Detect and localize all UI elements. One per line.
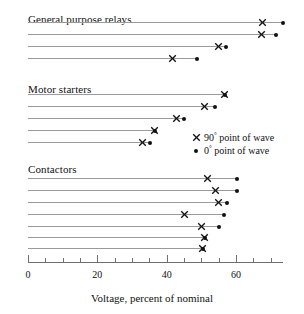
x-axis-tick-major (236, 255, 237, 262)
marker-90deg-point (214, 42, 223, 51)
data-row-line (28, 142, 150, 143)
marker-0deg-point (235, 177, 239, 181)
x-axis-tick-minor (63, 258, 64, 262)
marker-90deg-point (257, 30, 266, 39)
marker-90deg-point (214, 198, 223, 207)
marker-0deg-point (274, 33, 278, 37)
x-axis-tick-major (97, 255, 98, 262)
marker-0deg-point (195, 57, 199, 61)
x-axis-tick-label: 0 (26, 270, 31, 280)
marker-90deg-point (180, 210, 189, 219)
x-axis-tick-minor (132, 258, 133, 262)
data-row-line (28, 130, 155, 131)
marker-0deg-point (281, 21, 285, 25)
marker-90deg-point (258, 18, 267, 27)
data-row-line (28, 118, 184, 119)
marker-90deg-point (197, 222, 206, 231)
marker-90deg-point (220, 90, 229, 99)
marker-90deg-point (200, 233, 209, 242)
x-axis-tick-minor (219, 258, 220, 262)
data-row-line (28, 34, 276, 35)
marker-90deg-point (200, 102, 209, 111)
chart-root: General purpose relaysMotor startersCont… (0, 0, 304, 314)
x-axis-tick-minor (184, 258, 185, 262)
legend-item-label: 90° point of wave (204, 131, 274, 144)
x-axis-tick-minor (253, 258, 254, 262)
x-axis-tick-label: 60 (231, 270, 241, 280)
marker-0deg-point (148, 141, 152, 145)
group-title: Contactors (28, 164, 77, 175)
x-axis-tick-minor (80, 258, 81, 262)
data-row-line (28, 226, 219, 227)
legend-item-label: 0° point of wave (204, 144, 269, 157)
data-row-line (28, 22, 283, 23)
x-axis-tick-minor (201, 258, 202, 262)
x-axis-tick-minor (115, 258, 116, 262)
marker-90deg-point (198, 244, 207, 253)
marker-0deg-point (224, 45, 228, 49)
marker-90deg-point (168, 54, 177, 63)
marker-0deg-point (235, 189, 239, 193)
data-row-line (28, 214, 224, 215)
x-axis-title: Voltage, percent of nominal (0, 293, 304, 304)
x-axis-tick-minor (271, 258, 272, 262)
x-axis-tick-label: 20 (92, 270, 102, 280)
marker-0deg-point (225, 201, 229, 205)
data-row-line (28, 94, 225, 95)
marker-90deg-point (203, 174, 212, 183)
marker-90deg-point (172, 114, 181, 123)
marker-90deg-point (138, 138, 147, 147)
x-axis-tick-major (167, 255, 168, 262)
marker-0deg-point (217, 225, 221, 229)
data-row-line (28, 190, 237, 191)
x-axis-tick-major (28, 255, 29, 262)
marker-0deg-point (222, 213, 226, 217)
marker-90deg-point (211, 186, 220, 195)
x-axis-line (28, 262, 283, 263)
data-row-line (28, 46, 226, 47)
x-axis-tick-label: 40 (162, 270, 172, 280)
group-title: General purpose relays (28, 14, 132, 25)
legend-cross-icon (190, 131, 202, 144)
marker-90deg-point (150, 126, 159, 135)
marker-0deg-point (213, 105, 217, 109)
x-axis-tick-minor (149, 258, 150, 262)
data-row-line (28, 106, 215, 107)
legend-dot-icon (190, 144, 202, 157)
x-axis-tick-minor (45, 258, 46, 262)
data-row-line (28, 248, 203, 249)
data-row-line (28, 237, 205, 238)
marker-0deg-point (182, 117, 186, 121)
data-row-line (28, 202, 227, 203)
